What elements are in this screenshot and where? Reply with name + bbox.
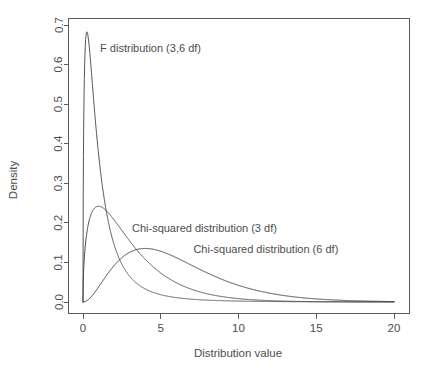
y-tick-label: 0.5 — [53, 96, 65, 112]
y-tick-label: 0.0 — [53, 294, 65, 310]
x-tick-label: 0 — [80, 322, 86, 334]
y-tick-label: 0.1 — [53, 254, 65, 270]
series-label: F distribution (3,6 df) — [100, 42, 201, 54]
y-tick-label: 0.3 — [53, 175, 65, 191]
x-tick-label: 10 — [232, 322, 245, 334]
y-tick-label: 0.4 — [53, 135, 65, 152]
x-tick-label: 15 — [310, 322, 323, 334]
chart-page: 0.00.10.20.30.40.50.60.7 05101520 F dist… — [0, 0, 426, 380]
x-tick-label: 20 — [388, 322, 401, 334]
x-tick-label: 5 — [158, 322, 164, 334]
density-plot: 0.00.10.20.30.40.50.60.7 05101520 F dist… — [0, 0, 426, 380]
series-label: Chi-squared distribution (3 df) — [132, 222, 277, 234]
y-axis-title: Density — [7, 161, 19, 200]
y-tick-label: 0.7 — [53, 17, 65, 33]
x-axis-title: Distribution value — [194, 347, 282, 359]
y-tick-label: 0.6 — [53, 57, 65, 73]
series-label: Chi-squared distribution (6 df) — [193, 243, 338, 255]
y-tick-label: 0.2 — [53, 215, 65, 231]
